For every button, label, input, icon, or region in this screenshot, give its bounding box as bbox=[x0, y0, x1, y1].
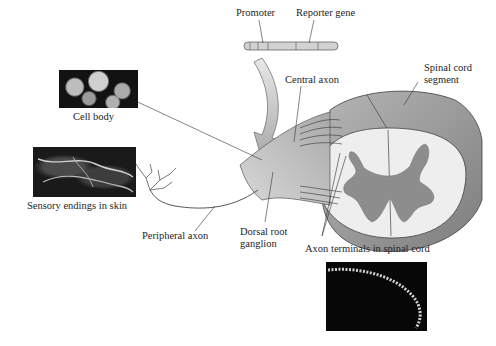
sensory-endings-micrograph bbox=[33, 147, 136, 197]
spinal-cord-segment-label-line1: Spinal cord bbox=[424, 62, 472, 74]
axon-terminals-micrograph bbox=[326, 262, 427, 331]
promoter-label: Promoter bbox=[236, 7, 275, 19]
terminals-arc-icon bbox=[326, 262, 427, 331]
cell-body-micrograph bbox=[59, 70, 138, 108]
nerve-fibers-icon bbox=[33, 147, 136, 197]
peripheral-axon bbox=[150, 190, 258, 208]
dorsal-root-label-line2: ganglion bbox=[240, 238, 288, 250]
reporter-gene-label: Reporter gene bbox=[296, 7, 355, 19]
sensory-endings-label: Sensory endings in skin bbox=[27, 200, 127, 212]
spinal-cord-segment bbox=[318, 91, 482, 251]
peripheral-axon-label: Peripheral axon bbox=[142, 230, 208, 242]
dorsal-root-nerve bbox=[136, 112, 342, 208]
dorsal-root-ganglion-label: Dorsal root ganglion bbox=[240, 226, 288, 250]
spinal-cord-segment-label: Spinal cord segment bbox=[424, 62, 472, 86]
spinal-cord-segment-label-line2: segment bbox=[424, 74, 472, 86]
axon-terminals-label: Axon terminals in spinal cord bbox=[305, 243, 430, 255]
cell-body-label: Cell body bbox=[73, 111, 114, 123]
central-axon-label: Central axon bbox=[285, 74, 339, 86]
dorsal-root-label-line1: Dorsal root bbox=[240, 226, 288, 238]
transgene-construct bbox=[244, 20, 338, 50]
sensory-endings-icon bbox=[136, 164, 176, 190]
